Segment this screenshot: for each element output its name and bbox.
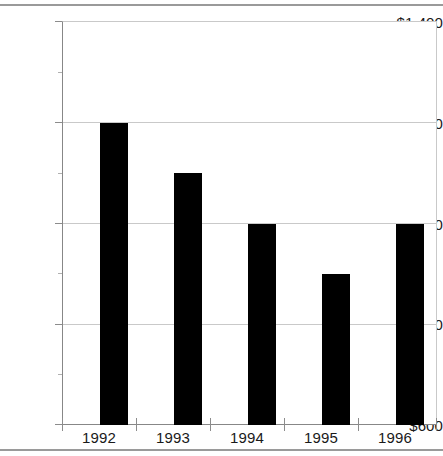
x-axis-label-1996: 1996 bbox=[358, 430, 432, 445]
x-axis-label-1993: 1993 bbox=[136, 430, 210, 445]
bar-1992 bbox=[100, 123, 128, 425]
bottom-divider-rule bbox=[0, 449, 443, 451]
x-axis-label-1995: 1995 bbox=[284, 430, 358, 445]
bar-1993 bbox=[174, 173, 202, 425]
bar-1994 bbox=[248, 224, 276, 425]
bar-1996 bbox=[396, 224, 424, 425]
bar-chart-figure: $1,400 $1,200 $1,000 $800 $600 1992 1993… bbox=[0, 0, 443, 456]
bar-1995 bbox=[322, 274, 350, 425]
plot-area bbox=[62, 21, 437, 425]
x-axis-label-1994: 1994 bbox=[210, 430, 284, 445]
x-tick-5 bbox=[436, 418, 437, 431]
x-axis-label-1992: 1992 bbox=[62, 430, 136, 445]
top-divider-rule bbox=[0, 4, 443, 6]
